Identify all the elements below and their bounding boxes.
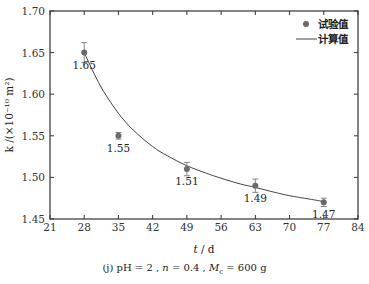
y-tick-label: 1.65 [22, 47, 45, 59]
data-point [184, 166, 190, 172]
legend-dot-icon [303, 21, 309, 27]
figure-caption: (j) pH = 2 , n = 0.4 , Mc = 600 g [0, 262, 369, 276]
data-label: 1.55 [107, 142, 130, 154]
y-tick-label: 1.70 [22, 5, 45, 17]
legend-label-calculated: 计算值 [318, 33, 349, 45]
y-tick-label: 1.60 [22, 88, 45, 100]
x-tick-label: 35 [112, 221, 125, 233]
data-label: 1.49 [244, 192, 267, 204]
caption-m-val: = 600 g [223, 262, 266, 273]
x-tick-label: 77 [317, 221, 330, 233]
plot-frame [50, 11, 358, 219]
chart-canvas: 212835424956637077841.451.501.551.601.65… [0, 0, 369, 284]
x-tick-label: 21 [43, 221, 56, 233]
caption-prefix: (j) pH = 2 , [102, 262, 162, 273]
y-tick-label: 1.45 [22, 213, 45, 225]
x-tick-label: 42 [146, 221, 159, 233]
y-tick-label: 1.50 [22, 171, 45, 183]
x-tick-label: 49 [180, 221, 193, 233]
x-tick-label: 84 [351, 221, 365, 233]
y-tick-label: 1.55 [22, 130, 45, 142]
x-tick-label: 63 [249, 221, 262, 233]
data-point [115, 133, 121, 139]
calculated-curve [84, 53, 324, 202]
x-tick-label: 56 [214, 221, 228, 233]
x-axis-title: t / d [193, 243, 214, 255]
data-label: 1.47 [312, 208, 335, 220]
data-point [81, 50, 87, 56]
caption-n-val: = 0.4 , [169, 262, 209, 273]
data-point [321, 199, 327, 205]
x-tick-label: 28 [78, 221, 91, 233]
data-point [252, 183, 258, 189]
data-label: 1.65 [73, 59, 96, 71]
data-label: 1.51 [175, 175, 198, 187]
legend-label-experimental: 试验值 [318, 18, 349, 30]
x-tick-label: 70 [283, 221, 296, 233]
y-axis-title: k /(×10⁻¹⁰ m²) [3, 77, 15, 152]
caption-m-var: M [209, 262, 219, 273]
